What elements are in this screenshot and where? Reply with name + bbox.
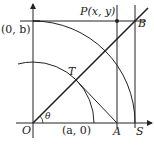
- label-theta: θ: [45, 111, 51, 121]
- label-T: T: [68, 65, 77, 78]
- label-B: B: [137, 17, 146, 30]
- label-point-a-axis: (a, 0): [62, 124, 91, 137]
- segment-T-A: [76, 80, 117, 123]
- theta-arc: [40, 116, 43, 123]
- label-P: P(x, y): [79, 5, 115, 18]
- label-O: O: [22, 124, 31, 137]
- arc-radius-a: [18, 62, 94, 123]
- label-point-b-axis: (0, b): [1, 23, 31, 36]
- label-A: A: [112, 125, 121, 138]
- ray-theta: [33, 8, 148, 123]
- label-S: S: [136, 125, 144, 138]
- point-P-dot: [115, 19, 119, 23]
- diagram-canvas: (0, b) P(x, y) B T θ O (a, 0) A S: [0, 0, 154, 146]
